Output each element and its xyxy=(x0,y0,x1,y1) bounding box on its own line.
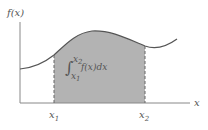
upper-limit-label: x2 xyxy=(139,109,150,123)
definite-integral-diagram: f(x) x x1 x2 ∫ x2 x1 f(x)dx xyxy=(0,0,208,130)
x-axis-label: x xyxy=(194,97,200,108)
lower-limit-label: x1 xyxy=(49,109,59,123)
integrand: f(x)dx xyxy=(80,62,107,72)
y-axis-label: f(x) xyxy=(6,7,24,18)
